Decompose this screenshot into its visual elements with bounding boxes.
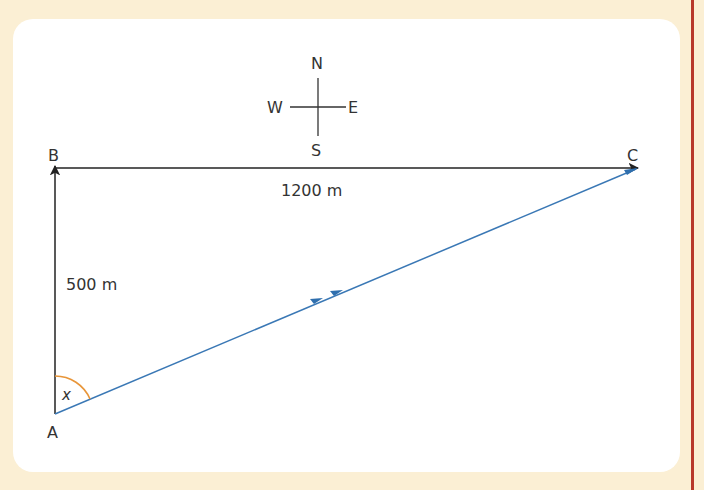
- angle-arc: [55, 376, 90, 399]
- compass-north-label: N: [311, 54, 323, 73]
- line-ac: [55, 169, 636, 414]
- point-c-label: C: [627, 146, 638, 165]
- point-a-label: A: [47, 423, 58, 442]
- compass-east-label: E: [348, 98, 358, 117]
- compass-south-label: S: [311, 141, 321, 160]
- bearing-diagram: N S E W x B C A 1200 m 500 m: [0, 0, 704, 490]
- length-ab-label: 500 m: [66, 275, 117, 294]
- compass-rose-icon: [290, 78, 346, 136]
- length-bc-label: 1200 m: [281, 181, 342, 200]
- point-b-label: B: [48, 146, 59, 165]
- direction-arrows-icon: [310, 290, 343, 304]
- angle-label: x: [61, 386, 71, 404]
- compass-west-label: W: [267, 98, 283, 117]
